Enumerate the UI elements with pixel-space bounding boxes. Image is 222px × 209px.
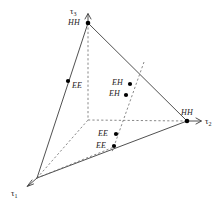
horizontal-to-right-vertex [88, 120, 186, 121]
axis-label-tau2-subscript: 2 [208, 121, 211, 127]
three-axis-phase-diagram: τ3 τ2 τ1 HH HH EE EH EH EE EE [0, 0, 222, 209]
point-label-eh-upper: EH [112, 79, 123, 87]
point-label-ee-upper-lower: EE [98, 130, 108, 138]
axis-arrows [27, 14, 202, 187]
edge-origin-to-right [37, 121, 187, 178]
vertex-marker-right [185, 119, 190, 124]
vertex-label-right: HH [181, 109, 193, 117]
point-label-ee-left-edge: EE [72, 82, 82, 90]
axis-label-tau3: τ3 [70, 7, 76, 16]
axis-label-tau1-subscript: 1 [14, 193, 17, 199]
point-markers [66, 21, 189, 148]
point-marker-eh-lower [124, 93, 128, 97]
vertex-marker-apex-top [86, 21, 91, 26]
origin-to-inner-corner [37, 120, 88, 178]
diagram-canvas [0, 0, 222, 209]
slanted-through-eh-ee [112, 62, 144, 152]
edge-apex-to-origin [37, 23, 88, 178]
point-marker-ee-lower-lower [112, 144, 116, 148]
point-marker-eh-upper [128, 82, 132, 86]
solid-edges [37, 23, 187, 178]
point-marker-ee-left-edge [66, 79, 70, 83]
arrow-tau1-icon [27, 178, 37, 187]
axis-label-tau1: τ1 [11, 189, 17, 198]
axis-label-tau3-subscript: 3 [73, 11, 76, 17]
point-marker-ee-upper-lower [114, 132, 118, 136]
axis-label-tau2: τ2 [205, 117, 211, 126]
point-label-eh-lower: EH [109, 90, 120, 98]
point-label-ee-lower-lower: EE [96, 142, 106, 150]
edge-apex-to-right [88, 23, 187, 121]
vertex-label-apex-top: HH [68, 19, 80, 27]
